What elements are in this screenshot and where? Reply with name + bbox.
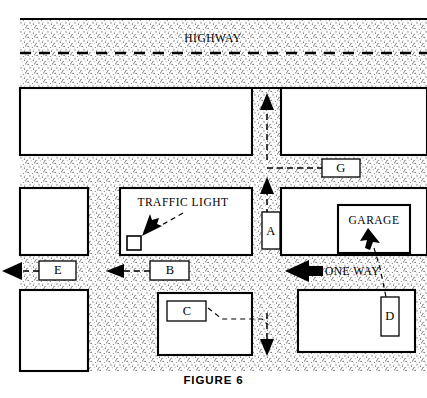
block-upper-right xyxy=(281,88,427,155)
marker-e[interactable]: E xyxy=(39,261,76,280)
traffic-light-icon xyxy=(127,236,141,250)
figure-6-street-map: HIGHWAY GARAGE TRAFFIC LIGHT xyxy=(0,0,427,398)
garage-box xyxy=(338,205,410,253)
marker-b[interactable]: B xyxy=(150,261,189,280)
marker-c[interactable]: C xyxy=(167,301,206,321)
block-lower-far-left xyxy=(20,290,88,371)
block-mid-far-left xyxy=(20,188,88,255)
marker-d-label: D xyxy=(385,309,394,323)
marker-a[interactable]: A xyxy=(262,212,280,249)
marker-e-label: E xyxy=(54,263,62,277)
marker-g[interactable]: G xyxy=(322,159,360,177)
one-way-label: ONE WAY xyxy=(325,265,380,277)
figure-caption: FIGURE 6 xyxy=(0,374,427,386)
marker-a-label: A xyxy=(266,224,275,238)
street-map-svg: HIGHWAY GARAGE TRAFFIC LIGHT xyxy=(0,0,427,398)
highway-label: HIGHWAY xyxy=(184,32,242,44)
block-upper-left xyxy=(20,88,252,155)
marker-d[interactable]: D xyxy=(381,297,399,336)
traffic-light-label: TRAFFIC LIGHT xyxy=(137,196,228,208)
garage-label: GARAGE xyxy=(349,214,400,226)
marker-g-label: G xyxy=(336,161,345,175)
west-arrow-e xyxy=(2,262,22,280)
marker-c-label: C xyxy=(183,304,192,318)
marker-b-label: B xyxy=(166,263,175,277)
